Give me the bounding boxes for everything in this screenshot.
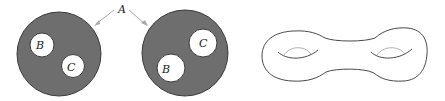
left-label-c: C — [67, 61, 76, 74]
label-a-group: A — [94, 3, 148, 26]
arrow-right-icon — [129, 10, 148, 26]
arrow-left-icon — [94, 10, 114, 26]
left-hole-upper-arc — [284, 48, 311, 55]
right-hole-lower-arc — [371, 49, 412, 58]
label-a: A — [117, 3, 126, 16]
left-disk: B C — [17, 12, 101, 96]
right-label-c: C — [199, 37, 208, 50]
left-label-b: B — [35, 39, 44, 52]
double-torus-outline — [262, 28, 427, 81]
figure-canvas: B C C B A — [0, 0, 445, 101]
right-label-b: B — [161, 63, 170, 76]
double-torus — [262, 28, 427, 81]
right-hole-upper-arc — [377, 48, 405, 55]
right-disk: C B — [142, 10, 228, 96]
left-hole-lower-arc — [278, 50, 318, 58]
